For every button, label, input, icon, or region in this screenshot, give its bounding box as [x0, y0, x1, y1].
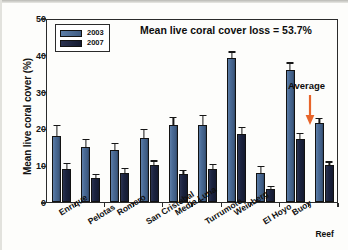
bar-2007 [325, 165, 334, 202]
error-bar [85, 140, 86, 147]
error-bar-cap [111, 143, 118, 144]
error-bar [329, 163, 330, 166]
bar-2003 [315, 123, 324, 202]
bar-rect [296, 139, 305, 202]
bar-group [251, 18, 280, 202]
y-axis: Mean live coral cover (%) 01020304050 [0, 0, 46, 250]
bar-rect [150, 165, 159, 202]
error-bar [270, 187, 271, 189]
error-bar [95, 175, 96, 178]
average-arrow-icon [305, 95, 315, 125]
x-axis-label: Pelotas [86, 202, 117, 227]
bar-rect [227, 58, 236, 202]
error-bar [66, 164, 67, 169]
error-bar-cap [257, 166, 264, 167]
bar-rect [62, 169, 71, 202]
bar-rect [91, 178, 100, 202]
error-bar-cap [92, 174, 99, 175]
error-bar [183, 171, 184, 174]
error-bar-cap [82, 139, 89, 140]
bar-2007 [120, 173, 129, 202]
bar-group [105, 18, 134, 202]
legend-swatch-2003 [60, 30, 82, 37]
error-bar-cap [267, 186, 274, 187]
bar-2007 [62, 169, 71, 202]
bar-rect [315, 123, 324, 202]
legend-item-2007: 2007 [60, 38, 104, 48]
error-bar [300, 134, 301, 139]
bar-rect [325, 165, 334, 202]
error-bar [212, 165, 213, 169]
legend-swatch-2007 [60, 40, 82, 47]
x-tick-mark [337, 203, 338, 207]
legend-label-2007: 2007 [87, 39, 104, 47]
error-bar [114, 144, 115, 151]
bar-rect [110, 150, 119, 202]
bar-rect [169, 125, 178, 202]
bar-2003 [52, 136, 61, 202]
error-bar-cap [141, 129, 148, 130]
error-bar-cap [63, 163, 70, 164]
error-bar-cap [199, 115, 206, 116]
error-bar-cap [287, 62, 294, 63]
bar-rect [52, 136, 61, 202]
bar-2007 [91, 178, 100, 202]
error-bar-cap [170, 117, 177, 118]
bar-2007 [296, 139, 305, 202]
scan-edge-top [0, 0, 348, 3]
error-bar [144, 130, 145, 137]
bar-group [164, 18, 193, 202]
bar-rect [237, 134, 246, 202]
bar-rect [120, 173, 129, 202]
error-bar [290, 64, 291, 70]
error-bar-cap [151, 160, 158, 161]
error-bar [56, 126, 57, 136]
error-bar-cap [326, 161, 333, 162]
x-axis-label: El Hoyo [261, 201, 293, 226]
error-bar [154, 162, 155, 166]
error-bar-cap [238, 127, 245, 128]
error-bar-cap [209, 164, 216, 165]
error-bar-cap [180, 170, 187, 171]
bar-group [135, 18, 164, 202]
error-bar-cap [316, 118, 323, 119]
legend: 2003 2007 [55, 24, 110, 52]
coral-cover-bar-chart: Mean live coral cover (%) 01020304050 20… [0, 0, 348, 250]
average-annotation-label: Average [288, 80, 325, 91]
chart-title: Mean live coral cover loss = 53.7% [140, 24, 312, 36]
legend-item-2003: 2003 [60, 28, 104, 38]
bar-group [222, 18, 251, 202]
legend-label-2003: 2003 [87, 29, 104, 37]
error-bar [260, 167, 261, 172]
bar-group [193, 18, 222, 202]
error-bar-cap [297, 133, 304, 134]
error-bar [124, 169, 125, 173]
bar-2003 [110, 150, 119, 202]
error-bar [231, 53, 232, 59]
error-bar-cap [53, 125, 60, 126]
error-bar [241, 128, 242, 134]
error-bar [319, 119, 320, 123]
error-bar-cap [228, 51, 235, 52]
bar-2007 [150, 165, 159, 202]
error-bar [202, 116, 203, 125]
x-axis-label: Reef [315, 229, 333, 239]
bar-2003 [169, 125, 178, 202]
error-bar-cap [121, 168, 128, 169]
error-bar [173, 118, 174, 125]
bar-2007 [237, 134, 246, 202]
bar-2003 [227, 58, 236, 202]
